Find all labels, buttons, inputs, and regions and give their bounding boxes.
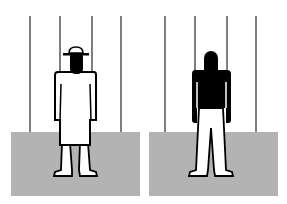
prison-bars-illustration [0,0,287,204]
illustration [0,0,287,204]
